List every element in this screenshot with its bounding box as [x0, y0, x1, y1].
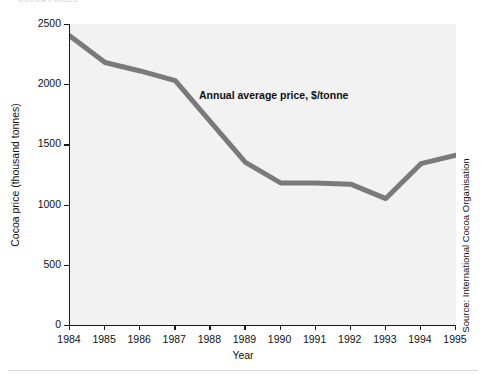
- x-tick-label: 1985: [92, 333, 115, 345]
- x-tick-label: 1994: [408, 333, 431, 345]
- y-axis-title-text: Cocoa price (thousand tonnes): [9, 103, 21, 247]
- x-axis-title: Year: [0, 349, 486, 361]
- x-tick-label: 1991: [303, 333, 326, 345]
- y-tick-label: 0: [55, 318, 61, 330]
- source-note-text: Source: International Cocoa Organisation: [460, 158, 471, 332]
- chart-page: COCOA PRICES 05001000150020002500 198419…: [0, 0, 486, 374]
- x-tick-mark: [244, 325, 245, 330]
- series-annotation: Annual average price, $/tonne: [199, 89, 348, 101]
- x-tick-mark: [69, 325, 70, 330]
- plot-area: [69, 24, 456, 326]
- x-tick-label: 1989: [233, 333, 256, 345]
- y-tick-label: 2500: [38, 17, 61, 29]
- x-tick-label: 1992: [338, 333, 361, 345]
- bottom-divider: [8, 370, 478, 371]
- x-tick-mark: [209, 325, 210, 330]
- y-axis-title: Cocoa price (thousand tonnes): [8, 24, 22, 325]
- x-tick-label: 1988: [198, 333, 221, 345]
- y-tick-mark: [64, 265, 69, 266]
- x-tick-mark: [315, 325, 316, 330]
- y-tick-mark: [64, 205, 69, 206]
- x-tick-label: 1984: [57, 333, 80, 345]
- data-line-svg: [70, 24, 456, 325]
- x-tick-mark: [350, 325, 351, 330]
- x-tick-label: 1986: [127, 333, 150, 345]
- y-tick-label: 500: [43, 258, 61, 270]
- x-tick-mark: [420, 325, 421, 330]
- y-tick-mark: [64, 24, 69, 25]
- x-tick-mark: [385, 325, 386, 330]
- x-tick-label: 1993: [373, 333, 396, 345]
- x-tick-mark: [174, 325, 175, 330]
- x-tick-mark: [455, 325, 456, 330]
- y-tick-mark: [64, 144, 69, 145]
- x-tick-mark: [139, 325, 140, 330]
- y-tick-label: 2000: [38, 77, 61, 89]
- cocoa-price-line: [70, 36, 456, 199]
- y-tick-label: 1000: [38, 198, 61, 210]
- source-note: Source: International Cocoa Organisation: [458, 150, 472, 340]
- cropped-header-text: COCOA PRICES: [18, 0, 78, 3]
- x-tick-mark: [280, 325, 281, 330]
- x-tick-label: 1987: [163, 333, 186, 345]
- x-tick-mark: [104, 325, 105, 330]
- x-tick-label: 1990: [268, 333, 291, 345]
- y-tick-label: 1500: [38, 137, 61, 149]
- y-tick-mark: [64, 84, 69, 85]
